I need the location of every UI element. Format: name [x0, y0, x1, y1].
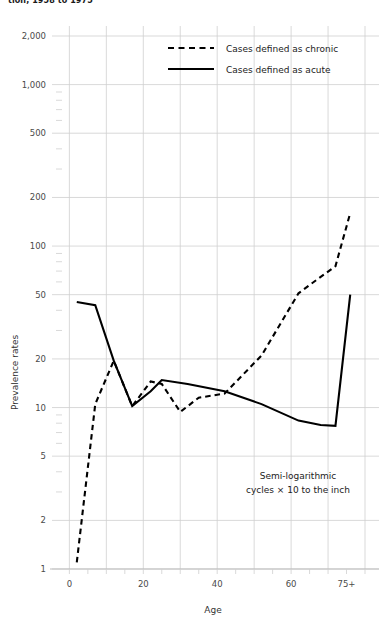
y-tick-label: 1,000 [22, 80, 46, 90]
legend-label: Cases defined as acute [226, 65, 331, 75]
x-tick-label: 0 [67, 579, 72, 589]
y-axis-tick-labels: 1251020501002005001,0002,000 [22, 31, 46, 574]
x-tick-label: 40 [212, 579, 223, 589]
y-tick-label: 50 [35, 290, 46, 300]
chart-legend: Cases defined as chronicCases defined as… [168, 44, 338, 75]
annotation-line-2: cycles × 10 to the inch [246, 485, 350, 495]
series-line [77, 295, 350, 426]
series-line [77, 213, 350, 562]
data-series-layer [77, 213, 350, 562]
y-tick-label: 10 [35, 403, 46, 413]
annotation-line-1: Semi-logarithmic [260, 471, 337, 481]
y-tick-label: 5 [41, 451, 46, 461]
x-tick-label: 75+ [338, 579, 356, 589]
legend-label: Cases defined as chronic [226, 44, 338, 54]
y-tick-label: 20 [35, 354, 46, 364]
x-axis-tick-marks [69, 569, 365, 574]
y-tick-label: 1 [41, 564, 46, 574]
y-tick-label: 100 [30, 241, 46, 251]
y-tick-label: 2,000 [22, 31, 46, 41]
x-tick-label: 20 [138, 579, 149, 589]
y-tick-label: 500 [30, 128, 46, 138]
x-axis-title: Age [204, 605, 222, 615]
x-tick-label: 60 [286, 579, 297, 589]
chart-container: tion, 1958 to 1975 1251020501002005001,0… [0, 0, 391, 624]
chart-canvas: 1251020501002005001,0002,000 020406075+ … [0, 0, 391, 624]
x-axis-tick-labels: 020406075+ [67, 579, 356, 589]
y-tick-label: 200 [30, 192, 46, 202]
y-axis-title: Prevalence rates [10, 334, 20, 410]
minor-tick-marks [56, 92, 62, 492]
y-tick-label: 2 [41, 515, 46, 525]
